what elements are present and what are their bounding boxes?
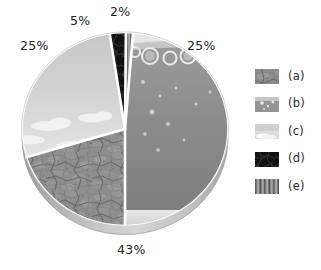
legend-label-e: (e) (288, 181, 305, 193)
legend-label-a: (a) (288, 71, 305, 83)
slice-label-c: 25% (20, 38, 49, 53)
legend-item-a[interactable]: (a) (255, 66, 321, 87)
slice-label-b: 25% (187, 38, 216, 53)
legend-item-d[interactable]: (d) (255, 149, 321, 170)
legend-item-e[interactable]: (e) (255, 176, 321, 197)
chart-legend: (a) (b) (255, 66, 321, 204)
rock-soil-swatch (255, 69, 279, 84)
legend-label-d: (d) (288, 153, 305, 165)
legend-label-c: (c) (288, 126, 304, 138)
pie-plot-area: 25% 5% 2% 25% 43% (0, 0, 248, 270)
legend-label-b: (b) (288, 98, 305, 110)
slice-label-a: 43% (117, 242, 146, 257)
pie-chart-figure: 25% 5% 2% 25% 43% (a) (b (0, 0, 321, 270)
striped-gray-swatch (255, 179, 279, 194)
slice-label-d: 5% (70, 13, 90, 28)
legend-item-b[interactable]: (b) (255, 94, 321, 115)
water-bubbles-swatch (255, 97, 279, 112)
sky-clouds-swatch (255, 124, 279, 139)
dark-black-swatch (255, 152, 279, 167)
slice-label-e: 2% (110, 4, 130, 19)
legend-item-c[interactable]: (c) (255, 121, 321, 142)
